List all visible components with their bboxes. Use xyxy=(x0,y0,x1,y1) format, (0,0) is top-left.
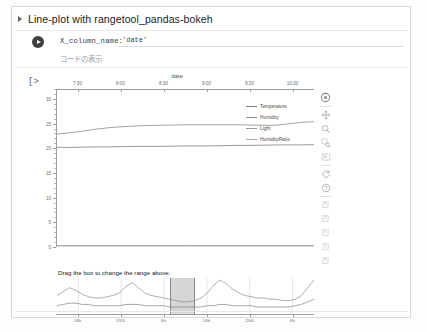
range-x-tick-label: 6h xyxy=(290,318,295,323)
save-icon[interactable] xyxy=(319,226,332,239)
y-tick-label: 15 xyxy=(39,170,51,175)
y-tick-label: 30 xyxy=(39,96,51,101)
y-tick-minor xyxy=(54,153,56,154)
y-tick xyxy=(53,99,56,100)
y-tick-label: 20 xyxy=(39,146,51,151)
range-x-tick-label: 6h xyxy=(161,318,166,323)
save-icon[interactable] xyxy=(319,254,332,267)
x-column-name-input[interactable] xyxy=(120,35,404,47)
y-tick xyxy=(53,247,56,248)
y-tick-minor xyxy=(54,212,56,213)
toolbar-separator xyxy=(320,106,331,107)
screenshot-root: Line-plot with rangetool_pandas-bokeh X_… xyxy=(0,0,427,332)
legend-label: HumidityRatio xyxy=(260,137,290,142)
y-tick-minor xyxy=(54,109,56,110)
y-tick-label: 25 xyxy=(39,121,51,126)
y-tick-minor xyxy=(54,237,56,238)
range-x-tick xyxy=(293,314,294,317)
legend-swatch xyxy=(246,117,257,118)
range-x-tick-label: 2/04 xyxy=(245,318,254,323)
y-tick-minor xyxy=(54,203,56,204)
y-tick xyxy=(53,173,56,174)
legend-item[interactable]: Light xyxy=(246,123,316,134)
legend-item[interactable]: Temperature xyxy=(246,101,316,112)
series-line xyxy=(57,145,314,148)
bokeh-toolbar[interactable]: ? xyxy=(317,91,334,268)
y-tick-minor xyxy=(54,119,56,120)
x-tick-label: 10:00 xyxy=(287,81,299,86)
range-x-axis xyxy=(56,314,314,315)
zoom-in-icon[interactable] xyxy=(319,122,332,135)
legend-label: Humidity xyxy=(260,115,279,120)
y-tick-minor xyxy=(54,242,56,243)
legend[interactable]: TemperatureHumidityLightHumidityRatio xyxy=(246,101,316,145)
show-code-link[interactable]: コードの表示 xyxy=(60,53,102,64)
range-x-tick-label: 2/03 xyxy=(116,318,125,323)
notebook-cell: Line-plot with rangetool_pandas-bokeh X_… xyxy=(11,6,411,318)
y-tick-minor xyxy=(54,143,56,144)
y-tick-minor xyxy=(54,178,56,179)
y-tick-minor xyxy=(54,129,56,130)
legend-swatch xyxy=(246,106,257,107)
y-tick-minor xyxy=(54,104,56,105)
bokeh-logo-icon xyxy=(319,91,332,104)
x-tick-label: 9:30 xyxy=(245,81,254,86)
legend-item[interactable]: Humidity xyxy=(246,112,316,123)
range-x-tick-label: 16h xyxy=(203,318,210,323)
save-icon[interactable] xyxy=(319,240,332,253)
bokeh-plot: date 7:308:008:309:009:3010:00 051015202… xyxy=(36,73,336,325)
range-x-tick-label: 18h xyxy=(74,318,81,323)
form-divider xyxy=(16,67,408,68)
legend-swatch xyxy=(246,139,257,140)
y-tick-label: 5 xyxy=(39,220,51,225)
box-select-icon[interactable] xyxy=(319,150,332,163)
y-tick-minor xyxy=(54,168,56,169)
y-tick-minor xyxy=(54,133,56,134)
reset-icon[interactable] xyxy=(319,167,332,180)
save-icon[interactable] xyxy=(319,198,332,211)
y-tick-minor xyxy=(54,208,56,209)
y-tick-label: 10 xyxy=(39,195,51,200)
y-tick xyxy=(53,148,56,149)
legend-swatch xyxy=(246,128,257,129)
y-tick-minor xyxy=(54,158,56,159)
cell-bottom-divider xyxy=(16,311,408,312)
save-icon[interactable] xyxy=(319,212,332,225)
cell-header[interactable]: Line-plot with rangetool_pandas-bokeh xyxy=(12,7,410,31)
range-x-tick xyxy=(250,314,251,317)
legend-label: Light xyxy=(260,126,270,131)
y-tick-minor xyxy=(54,183,56,184)
range-x-tick xyxy=(121,314,122,317)
y-tick-minor xyxy=(54,232,56,233)
y-tick-minor xyxy=(54,227,56,228)
y-tick-minor xyxy=(54,188,56,189)
triangle-right-icon[interactable] xyxy=(18,16,22,22)
x-tick-label: 8:00 xyxy=(116,81,125,86)
y-tick-minor xyxy=(54,217,56,218)
help-icon[interactable]: ? xyxy=(319,181,332,194)
box-zoom-icon[interactable] xyxy=(319,136,332,149)
page-title: Line-plot with rangetool_pandas-bokeh xyxy=(28,13,213,25)
chart-title: date xyxy=(36,73,318,79)
svg-text:?: ? xyxy=(324,184,327,190)
x-tick-label: 7:30 xyxy=(73,81,82,86)
y-tick-minor xyxy=(54,114,56,115)
range-x-tick xyxy=(78,314,79,317)
y-tick-minor xyxy=(54,193,56,194)
legend-item[interactable]: HumidityRatio xyxy=(246,134,316,145)
y-tick-minor xyxy=(54,163,56,164)
y-tick xyxy=(53,222,56,223)
form-row: X_column_name: コードの表示 xyxy=(12,33,410,55)
x-column-name-label: X_column_name: xyxy=(60,37,123,45)
pan-icon[interactable] xyxy=(319,108,332,121)
y-tick xyxy=(53,124,56,125)
range-x-tick xyxy=(207,314,208,317)
legend-label: Temperature xyxy=(260,104,287,109)
y-tick xyxy=(53,198,56,199)
x-tick-label: 9:00 xyxy=(202,81,211,86)
run-cell-button[interactable] xyxy=(32,36,44,48)
range-selection-box[interactable] xyxy=(170,278,195,314)
range-hint-text: Drag the box to change the range above. xyxy=(58,269,171,276)
y-tick-minor xyxy=(54,94,56,95)
y-tick-label: 0 xyxy=(39,245,51,250)
